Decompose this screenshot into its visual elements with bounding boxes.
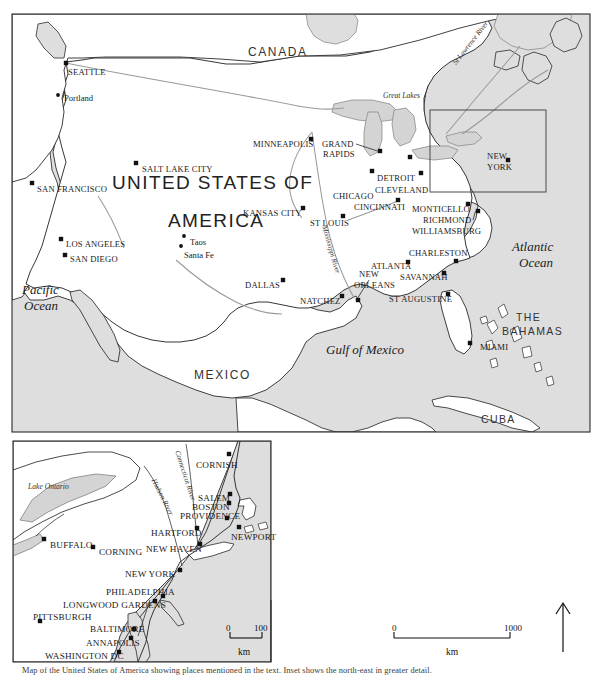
city-marker-detroit (408, 155, 412, 159)
country-label-cuba: CUBA (481, 414, 516, 425)
ocean-label-gulf-of-mexico: Gulf of Mexico (326, 343, 404, 356)
main-scale-bar (394, 632, 510, 638)
city-marker-santa-fe (179, 244, 183, 248)
city-marker-cleveland (419, 171, 423, 175)
city-label-minneapolis: MINNEAPOLIS (253, 140, 313, 149)
city-label-chicago: CHICAGO (333, 192, 374, 201)
ocean-label-ocean: Ocean (24, 299, 58, 312)
city-marker-miami (468, 341, 472, 345)
city-label-richmond: RICHMOND (423, 216, 471, 225)
city-label-orleans: ORLEANS (354, 281, 395, 290)
ocean-label-ocean: Ocean (519, 256, 553, 269)
figure-caption: Map of the United States of America show… (22, 666, 592, 675)
inset-water-label-lake-ontario: Lake Ontario (28, 483, 69, 491)
city-marker-charleston (454, 259, 458, 263)
inset-city-marker-newport (237, 525, 241, 529)
city-label-san-diego: SAN DIEGO (70, 255, 118, 264)
city-label-williamsburg: WILLIAMSBURG (412, 227, 481, 236)
city-label-savannah: SAVANNAH (400, 273, 448, 282)
inset-city-label-hartford: HARTFORD (151, 529, 202, 538)
inset-city-label-new-york: NEW YORK (125, 570, 175, 579)
city-label-seattle: SEATTLE (68, 68, 106, 77)
inset-scale-min: 0 (226, 624, 231, 633)
city-marker-seattle (64, 61, 68, 65)
city-label-cincinnati: CINCINNATI (354, 203, 405, 212)
city-label-san-francisco: SAN FRANCISCO (37, 185, 107, 194)
inset-city-label-corning: CORNING (99, 548, 142, 557)
usa-title-line1: UNITED STATES OF (112, 173, 313, 192)
city-marker-san-diego (63, 253, 67, 257)
inset-city-marker-new-york (178, 568, 182, 572)
city-marker-richmond (476, 209, 480, 213)
city-label-taos: Taos (190, 238, 206, 247)
city-label-st-augustine: ST AUGUSTINE (389, 295, 452, 304)
inset-scale-max: 100 (254, 624, 268, 633)
city-label-new: NEW (487, 152, 507, 161)
city-marker-new (356, 298, 360, 302)
inset-city-marker-buffalo (42, 537, 46, 541)
inset-city-label-providence: PROVIDENCE (180, 512, 240, 521)
country-label-canada: CANADA (248, 46, 308, 58)
city-label-york: YORK (487, 163, 512, 172)
inset-city-label-longwood-gardens: LONGWOOD GARDENS (63, 601, 166, 610)
city-label-cleveland: CLEVELAND (375, 186, 428, 195)
city-marker-portland (56, 93, 60, 97)
usa-title-line2: AMERICA (168, 211, 264, 230)
city-label-dallas: DALLAS (245, 281, 280, 290)
city-label-rapids: RAPIDS (323, 150, 355, 159)
inset-city-label-cornish: CORNISH (196, 461, 238, 470)
inset-city-label-annapolis: ANNAPOLIS (86, 639, 140, 648)
city-label-grand: GRAND (322, 140, 354, 149)
city-marker-salt-lake-city (134, 161, 138, 165)
ocean-label-pacific: Pacific (22, 283, 59, 296)
city-marker-san-francisco (30, 181, 34, 185)
map-figure: CANADAMEXICOCUBATHEBAHAMAS PacificOceanA… (0, 0, 602, 680)
city-marker-taos (182, 234, 186, 238)
inset-city-label-philadelphia: PHILADELPHIA (106, 588, 175, 597)
inset-city-label-new-haven: NEW HAVEN (146, 545, 202, 554)
city-label-new: NEW (359, 270, 379, 279)
city-marker-los-angeles (59, 237, 63, 241)
main-scale-max: 1000 (504, 624, 522, 633)
inset-city-label-baltimore: BALTIMORE (90, 625, 145, 634)
inset-scale-unit: km (238, 648, 250, 658)
city-marker-chicago (370, 169, 374, 173)
city-label-detroit: DETROIT (377, 174, 415, 183)
water-label-great-lakes: Great Lakes (383, 92, 420, 100)
city-label-santa-fe: Santa Fe (184, 251, 214, 260)
city-marker-grand (378, 149, 382, 153)
inset-city-label-washington-dc: WASHINGTON DC (45, 652, 124, 661)
city-label-natchez: NATCHEZ (300, 297, 341, 306)
country-label-mexico: MEXICO (194, 369, 251, 381)
city-marker-dallas (281, 278, 285, 282)
north-arrow-icon (556, 603, 570, 652)
inset-city-marker-cornish (227, 452, 231, 456)
country-label-the: THE (516, 312, 541, 323)
inset-city-label-newport: NEWPORT (231, 533, 276, 542)
lake-erie (412, 146, 458, 160)
city-label-st-louis: ST LOUIS (310, 219, 349, 228)
inset-city-label-buffalo: BUFFALO (50, 541, 93, 550)
city-label-miami: MIAMI (480, 343, 508, 352)
inset-city-label-pittsburgh: PITTSBURGH (33, 613, 92, 622)
city-label-portland: Portland (64, 94, 93, 103)
main-scale-min: 0 (392, 624, 397, 633)
country-label-bahamas: BAHAMAS (502, 326, 563, 337)
city-label-charleston: CHARLESTON (409, 249, 468, 258)
ocean-label-atlantic: Atlantic (512, 240, 553, 253)
city-label-los-angeles: LOS ANGELES (66, 240, 125, 249)
city-label-monticello: MONTICELLO (412, 205, 470, 214)
main-scale-unit: km (446, 648, 458, 658)
